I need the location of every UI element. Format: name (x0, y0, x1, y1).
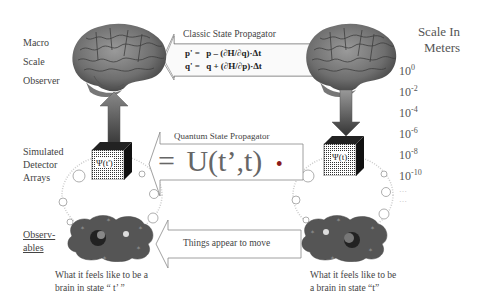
scale-title-1: Scale In (404, 24, 474, 40)
svg-text:✶: ✶ (336, 217, 341, 223)
label-arrays: Arrays (23, 171, 50, 184)
label-observables-1: Observ- (23, 228, 55, 241)
scale-ellipsis: … (399, 195, 422, 205)
cube-right-label: Ψ(t) (331, 152, 348, 162)
eq2-rhs: q + (∂H/∂p)·Δt (206, 61, 262, 71)
classic-equation-1: p' = p – (∂H/∂q)·Δt (185, 47, 261, 59)
svg-text:✶: ✶ (138, 225, 143, 231)
classic-propagator-title: Classic State Propagator (183, 29, 276, 39)
classic-equation-2: q' = q + (∂H/∂p)·Δt (185, 60, 262, 72)
svg-text:✶: ✶ (370, 225, 375, 231)
caption-right-line-2: a brain in state “t” (310, 282, 396, 295)
things-move-label: Things appear to move (183, 238, 270, 248)
label-observer: Observer (23, 74, 60, 87)
svg-text:✶: ✶ (136, 245, 141, 251)
observable-cloud-left: ✶✶✶✶✶ (66, 214, 156, 262)
svg-text:✶: ✶ (106, 217, 111, 223)
scale-item: 10-6 (399, 122, 422, 143)
eq2-lhs: q' = (185, 61, 200, 71)
caption-right: What it feels like to be a brain in stat… (310, 269, 396, 295)
scale-item: 10-2 (399, 80, 422, 101)
down-arrow-icon (330, 88, 362, 138)
scale-item: 10-8 (399, 143, 422, 164)
dot-operator: • (276, 153, 283, 175)
quantum-propagator-title: Quantum State Propagator (174, 131, 269, 141)
caption-left: What it feels like to be a brain in stat… (55, 269, 148, 295)
caption-left-line-1: What it feels like to be a (55, 269, 148, 282)
label-detector: Detector (23, 158, 57, 171)
scale-ellipsis: … (399, 185, 422, 195)
detector-cube-right: Ψ(t) (322, 134, 364, 176)
detector-cube-left: Ψ(t') (90, 140, 132, 180)
scale-list: 100 10-2 10-4 10-6 10-8 10-10 … … (399, 59, 422, 205)
svg-text:✶: ✶ (80, 225, 85, 231)
label-scale: Scale (23, 55, 45, 68)
svg-text:✶: ✶ (330, 255, 335, 261)
scale-item: 10-10 (399, 164, 422, 185)
cube-left-label: Ψ(t') (95, 158, 114, 168)
eq1-rhs: p – (∂H/∂q)·Δt (206, 48, 261, 58)
eq1-lhs: p' = (185, 48, 200, 58)
equals-sign: = (158, 144, 175, 177)
svg-text:✶: ✶ (310, 229, 315, 235)
quantum-operator-expression: = U(t’,t) • (158, 144, 283, 181)
svg-text:✶: ✶ (102, 255, 107, 261)
observable-cloud-right: ✶✶✶✶✶ (300, 214, 390, 262)
label-observables-2: ables (23, 241, 44, 254)
svg-text:✶: ✶ (368, 247, 373, 253)
scale-title-2: Meters (404, 40, 474, 56)
scale-title: Scale In Meters (404, 24, 474, 56)
caption-left-line-2: brain in state “ t’ ” (55, 282, 148, 295)
label-macro: Macro (23, 36, 49, 49)
brain-left-image (66, 20, 170, 100)
scale-item: 100 (399, 59, 422, 80)
scale-item: 10-4 (399, 101, 422, 122)
caption-right-line-1: What it feels like to be (310, 269, 396, 282)
unitary-operator: U(t’,t) (186, 144, 262, 177)
